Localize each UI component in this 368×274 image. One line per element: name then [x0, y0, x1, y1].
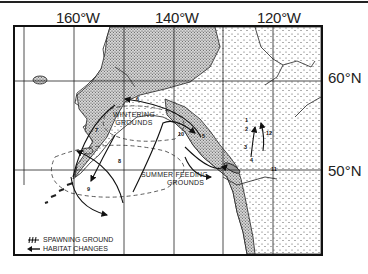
spawning-ground-icon [27, 237, 40, 243]
map-legend: SPAWNING GROUND HABITAT CHANGES [27, 235, 113, 253]
route-number-5: 5 [202, 133, 205, 139]
latitude-label-50n: 50°N [328, 162, 362, 179]
route-number-1: 1 [245, 117, 248, 123]
route-number-12: 12 [266, 130, 272, 136]
map-canvas [15, 27, 321, 254]
longitude-label-120w: 120°W [257, 9, 301, 26]
longitude-label-160w: 160°W [56, 9, 100, 26]
legend-spawning-ground: SPAWNING GROUND [27, 235, 113, 244]
route-number-4: 4 [250, 157, 253, 163]
route-number-3: 3 [244, 144, 247, 150]
arrow-left-icon [27, 246, 40, 252]
route-number-7: 7 [95, 127, 98, 133]
latitude-label-60n: 60°N [328, 69, 362, 86]
route-number-8: 8 [118, 158, 121, 164]
top-rule [0, 1, 368, 3]
route-number-9: 9 [87, 186, 90, 192]
route-number-6: 6 [136, 96, 139, 102]
route-number-11: 11 [271, 166, 277, 172]
summer-feeding-grounds-label: SUMMER FEEDING GROUNDS [141, 171, 208, 187]
longitude-label-140w: 140°W [155, 9, 199, 26]
route-number-10: 10 [178, 131, 184, 137]
legend-habitat-changes: HABITAT CHANGES [27, 244, 113, 253]
wintering-grounds-label: WINTERING GROUNDS [113, 111, 155, 127]
map-frame: WINTERING GROUNDS SUMMER FEEDING GROUNDS… [13, 25, 323, 256]
route-number-2: 2 [245, 126, 248, 132]
